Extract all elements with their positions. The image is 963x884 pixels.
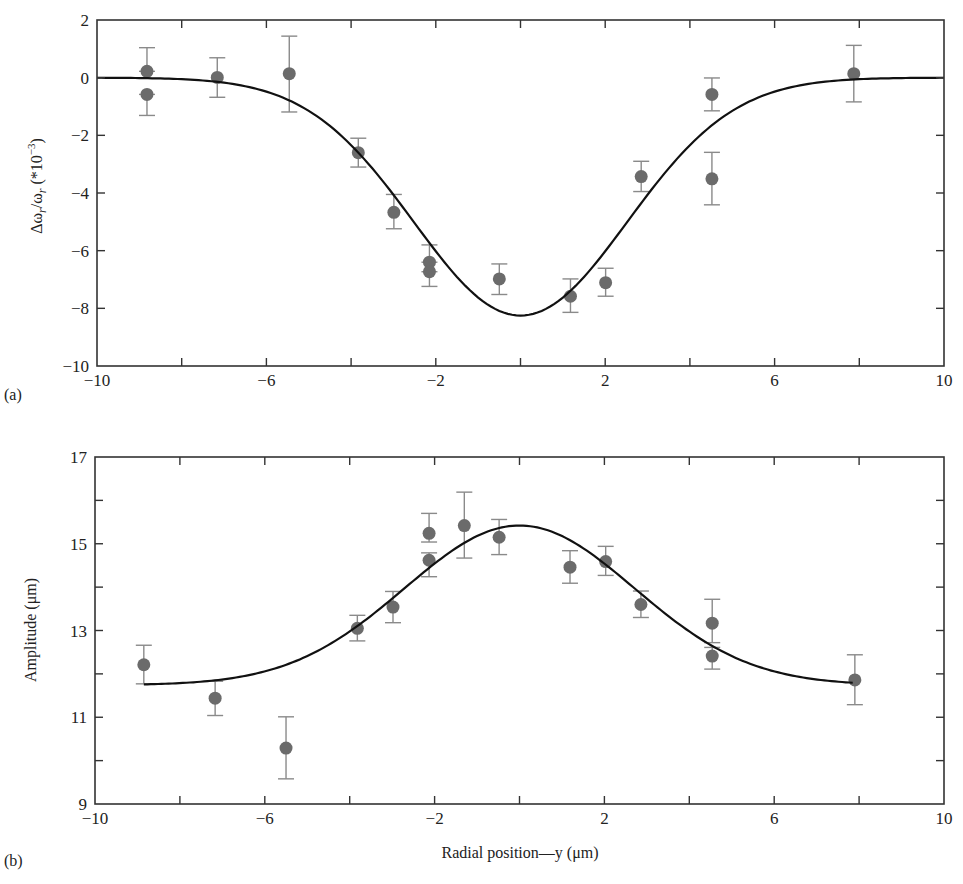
y-tick-label: 11 — [71, 708, 87, 727]
panel-a-ticks — [97, 20, 944, 366]
data-point — [140, 88, 153, 101]
panel-a-y-tick-labels: 20−2−4−6−8−10 — [62, 11, 89, 376]
panel-b-y-axis-label: Amplitude (μm) — [22, 578, 40, 682]
panel-a-label: (a) — [4, 386, 22, 404]
panel-a-y-axis-label: Δωr/ωr (*10−3) — [25, 138, 49, 234]
y-tick-label: −10 — [62, 357, 89, 376]
data-point — [706, 617, 719, 630]
y-tick-label: 0 — [81, 69, 90, 88]
data-point — [635, 170, 648, 183]
data-point — [137, 658, 150, 671]
y-tick-label: −6 — [71, 242, 89, 261]
panel-b-x-tick-labels: −10−6−22610 — [82, 809, 953, 828]
x-tick-label: 6 — [770, 371, 779, 390]
x-tick-label: 6 — [770, 809, 779, 828]
panel-a-plot-frame — [97, 20, 944, 366]
panel-a-x-tick-labels: −10−6−22610 — [84, 371, 953, 390]
y-tick-label: −8 — [71, 299, 89, 318]
panel-b-label: (b) — [4, 852, 23, 870]
x-tick-label: −2 — [426, 809, 444, 828]
data-point — [283, 67, 296, 80]
x-axis-label: Radial position—y (μm) — [441, 844, 598, 862]
panel-a-chart: −10−6−22610 20−2−4−6−8−10 Δωr/ωr (*10−3)… — [4, 11, 953, 404]
figure: −10−6−22610 20−2−4−6−8−10 Δωr/ωr (*10−3)… — [0, 0, 963, 884]
data-point — [564, 561, 577, 574]
x-tick-label: 10 — [936, 809, 953, 828]
data-point — [423, 265, 436, 278]
panel-b-plot-frame — [95, 457, 944, 804]
data-point — [458, 519, 471, 532]
data-point — [599, 276, 612, 289]
panel-b-chart: −10−6−22610 171513119 Amplitude (μm) Rad… — [4, 448, 953, 870]
y-tick-label: 17 — [70, 448, 88, 467]
data-point — [493, 531, 506, 544]
data-point — [848, 673, 861, 686]
y-tick-label: 15 — [70, 535, 87, 554]
y-tick-label: 2 — [81, 11, 90, 30]
x-tick-label: 2 — [600, 809, 609, 828]
data-point — [423, 527, 436, 540]
x-tick-label: −2 — [427, 371, 445, 390]
x-tick-label: 2 — [601, 371, 610, 390]
data-point — [140, 65, 153, 78]
y-tick-label: 9 — [79, 795, 88, 814]
data-point — [634, 598, 647, 611]
panel-b-y-tick-labels: 171513119 — [70, 448, 88, 814]
panel-b-fit-curve — [144, 526, 853, 685]
data-point — [209, 692, 222, 705]
y-tick-label: 13 — [70, 622, 87, 641]
x-tick-label: −6 — [257, 371, 275, 390]
x-tick-label: 10 — [936, 371, 953, 390]
data-point — [280, 742, 293, 755]
data-point — [705, 172, 718, 185]
y-tick-label: −4 — [71, 184, 90, 203]
y-tick-label: −2 — [71, 126, 89, 145]
panel-a-fit-curve — [97, 78, 944, 316]
panel-a-errorbars — [139, 36, 862, 312]
data-point — [705, 88, 718, 101]
figure-svg: −10−6−22610 20−2−4−6−8−10 Δωr/ωr (*10−3)… — [0, 0, 963, 884]
x-tick-label: −6 — [256, 809, 274, 828]
data-point — [387, 206, 400, 219]
data-point — [493, 272, 506, 285]
data-point — [706, 650, 719, 663]
panel-b-ticks — [95, 457, 944, 804]
